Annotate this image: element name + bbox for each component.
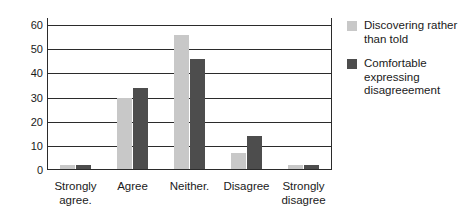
y-tick-label: 60: [31, 20, 43, 31]
bar-chart: 0102030405060 Strongly agree.AgreeNeithe…: [0, 0, 467, 216]
plot-frame: [47, 18, 332, 170]
x-tick-label: Strongly disagree: [281, 179, 325, 207]
x-tick-label: Neither.: [170, 179, 210, 193]
x-tick-label: Disagree: [223, 179, 269, 193]
y-tick-label: 20: [31, 116, 43, 127]
legend-label: Discovering rather than told: [364, 19, 465, 46]
legend-swatch-icon: [347, 21, 357, 31]
legend-label: Comfortable expressing disagreeement: [364, 57, 465, 98]
y-tick-label: 40: [31, 68, 43, 79]
legend-entry[interactable]: Comfortable expressing disagreeement: [347, 57, 465, 98]
plot-area: 0102030405060 Strongly agree.AgreeNeithe…: [47, 18, 332, 170]
y-tick-label: 10: [31, 140, 43, 151]
y-tick-label: 0: [37, 165, 43, 176]
y-tick-label: 30: [31, 92, 43, 103]
x-tick-label: Strongly agree.: [54, 179, 96, 207]
chart-legend: Discovering rather than toldComfortable …: [347, 19, 465, 109]
legend-entry[interactable]: Discovering rather than told: [347, 19, 465, 46]
legend-swatch-icon: [347, 59, 357, 69]
x-tick-label: Agree: [117, 179, 148, 193]
y-tick-label: 50: [31, 44, 43, 55]
